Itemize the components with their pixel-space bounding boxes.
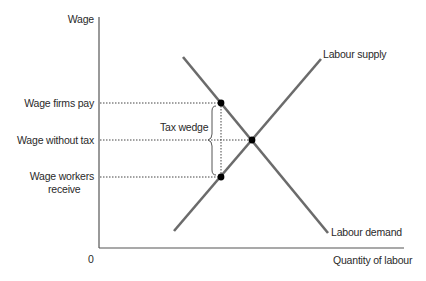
y-axis-label: Wage [68,13,94,25]
labour-demand-curve [183,57,328,233]
point-wage-workers-receive [218,174,225,181]
labour-supply-curve [174,59,321,231]
label-tax-wedge: Tax wedge [160,121,208,133]
label-wage-firms-pay: Wage firms pay [24,97,94,109]
label-labour-demand: Labour demand [331,226,402,238]
point-wage-firms-pay [218,100,225,107]
origin-label: 0 [88,253,94,265]
label-wage-workers-receive-line2: receive [48,183,80,195]
label-wage-without-tax: Wage without tax [17,134,94,146]
label-labour-supply: Labour supply [323,48,386,60]
x-axis-label: Quantity of labour [333,254,412,266]
label-wage-workers-receive-line1: Wage workers [30,170,94,182]
point-equilibrium [249,137,256,144]
